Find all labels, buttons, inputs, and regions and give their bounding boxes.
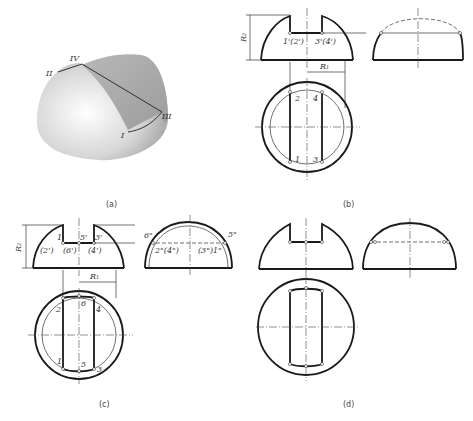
label-3pp1pp: (3")1" [198,246,222,255]
label-c3: 3 [97,365,102,374]
caption-d: (d) [343,400,354,409]
label-2p: (2') [40,246,54,255]
engineering-drawing: II IV III I (a) R2 1'(2') 3'(4') R1 [0,0,473,421]
dim-R2-c: R2 [14,243,23,253]
dim-R1-b: R1 [319,62,329,71]
label-c2: 2 [55,305,61,314]
label-2: 2 [294,94,300,103]
label-point-II: II [45,69,53,78]
caption-a: (a) [106,200,117,209]
dim-R1-c: R1 [89,272,99,281]
label-point-IV: IV [69,54,80,63]
caption-c: (c) [99,400,110,409]
panel-c: R2 1' 5' 3' (2') (6') (4') 6" 5" 2"(4") … [14,215,237,409]
label-point-III: III [161,112,172,121]
label-1p2p: 1'(2') [283,37,304,46]
label-5p: 5' [80,233,87,242]
label-4p: (4') [88,246,102,255]
label-c5: 5 [81,360,86,369]
panel-b: R2 1'(2') 3'(4') R1 2 4 1 3 (b) [239,8,463,209]
panel-d: (d) [256,218,456,409]
label-c4: 4 [95,305,101,314]
label-6p: (6') [63,246,77,255]
dim-R2-b: R2 [239,33,248,43]
label-5pp: 5" [228,230,237,239]
label-c1: 1 [57,357,62,366]
label-4: 4 [312,94,318,103]
label-1p: 1' [57,233,64,242]
label-3p4p: 3'(4') [315,37,336,46]
label-1: 1 [295,155,300,164]
label-c6: 6 [81,299,86,308]
label-3: 3 [313,155,318,164]
caption-b: (b) [343,200,354,209]
label-6pp: 6" [144,231,153,240]
label-3p: 3' [95,233,102,242]
panel-a-pictorial: II IV III I (a) [37,54,172,209]
label-2pp4pp: 2"(4") [154,246,179,255]
